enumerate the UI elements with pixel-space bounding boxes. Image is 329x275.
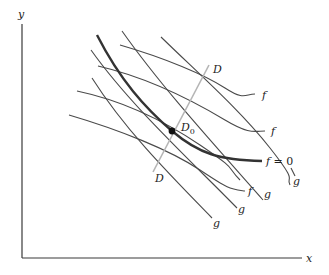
f-curve-1 [120, 45, 255, 96]
level-curves-diagram: y x D D D0 f f f f = 0 g g g g [0, 0, 329, 275]
g-curve-4 [92, 78, 212, 218]
g-label-3: g [238, 203, 245, 216]
f-zero-label: f = 0 [265, 155, 293, 168]
g-label-4: g [213, 217, 220, 230]
g-label-2: g [264, 188, 271, 201]
g-label-1: g [293, 175, 300, 188]
point-D0-label: D0 [180, 121, 195, 136]
line-D-label-bottom: D [154, 172, 164, 185]
f-label-2: f [270, 125, 277, 138]
f-zero-curve [97, 35, 262, 161]
x-axis-label: x [306, 252, 313, 265]
line-D [153, 65, 209, 172]
f-label-3: f [247, 185, 254, 198]
f-label-1: f [261, 89, 268, 102]
point-D0 [169, 128, 176, 135]
f-curve-3 [77, 91, 240, 180]
line-D-label-top: D [212, 63, 222, 76]
y-axis-label: y [17, 8, 25, 21]
